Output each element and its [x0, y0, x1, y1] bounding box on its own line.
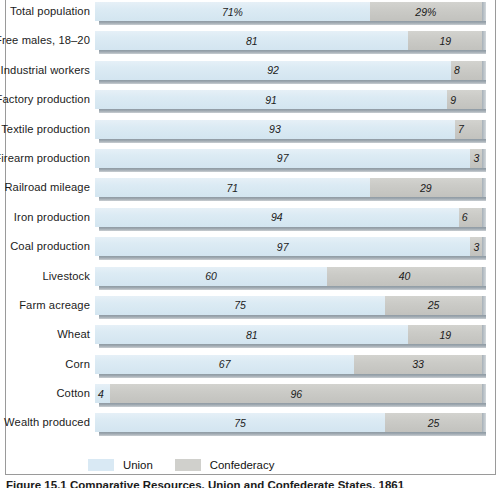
- bar-shadow: [99, 227, 486, 231]
- stacked-bar: 71%29%: [95, 2, 482, 21]
- bar-row: Textile production937: [0, 118, 497, 147]
- confederacy-swatch-icon: [175, 459, 201, 471]
- bar-segment-union: 91: [95, 90, 447, 109]
- bar-row-label: Total population: [0, 2, 90, 21]
- bar-row-label: Textile production: [0, 120, 90, 139]
- bar-row: Factory production919: [0, 88, 497, 117]
- bar-segment-confederacy: 29%: [370, 2, 482, 21]
- bar-row: Farm acreage7525: [0, 294, 497, 323]
- bar-row-label: Railroad mileage: [0, 178, 90, 197]
- legend-label-confederacy: Confederacy: [210, 459, 275, 471]
- bar-segment-union: 71%: [95, 2, 370, 21]
- stacked-bar: 946: [95, 208, 482, 227]
- stacked-bar: 7525: [95, 413, 482, 432]
- bar-row: Free males, 18–208119: [0, 29, 497, 58]
- stacked-bar: 7129: [95, 178, 482, 197]
- bar-segment-union: 75: [95, 296, 385, 315]
- bar-segment-confederacy: 25: [385, 296, 482, 315]
- bar-segment-confederacy: 8: [451, 61, 482, 80]
- bar-segment-confederacy: 7: [455, 120, 482, 139]
- bar-segment-confederacy: 25: [385, 413, 482, 432]
- bar-shadow: [99, 50, 486, 54]
- bar-shadow: [99, 403, 486, 407]
- bar-segment-confederacy: 6: [459, 208, 482, 227]
- chart-legend: Union Confederacy: [0, 455, 497, 475]
- bar-row: Railroad mileage7129: [0, 176, 497, 205]
- bar-segment-confederacy: 96: [110, 384, 482, 403]
- bar-shadow: [99, 139, 486, 143]
- stacked-bar: 8119: [95, 31, 482, 50]
- bar-row: Iron production946: [0, 206, 497, 235]
- bar-row: Cotton496: [0, 382, 497, 411]
- union-swatch-icon: [88, 459, 114, 471]
- bar-row: Firearm production973: [0, 147, 497, 176]
- bar-shadow: [99, 168, 486, 172]
- bar-segment-confederacy: 33: [354, 355, 482, 374]
- stacked-bar: 8119: [95, 325, 482, 344]
- bar-row-label: Cotton: [0, 384, 90, 403]
- bar-segment-union: 4: [95, 384, 110, 403]
- stacked-bar: 496: [95, 384, 482, 403]
- figure-caption: Figure 15.1 Comparative Resources, Union…: [6, 479, 496, 488]
- bar-row-label: Free males, 18–20: [0, 31, 90, 50]
- bar-segment-union: 94: [95, 208, 459, 227]
- bar-row: Livestock6040: [0, 265, 497, 294]
- bar-shadow: [99, 344, 486, 348]
- bar-segment-union: 93: [95, 120, 455, 139]
- bar-row-label: Livestock: [0, 267, 90, 286]
- bar-row: Wealth produced7525: [0, 411, 497, 440]
- bar-segment-union: 71: [95, 178, 370, 197]
- bar-row: Coal production973: [0, 235, 497, 264]
- stacked-bar: 6040: [95, 267, 482, 286]
- bar-segment-union: 75: [95, 413, 385, 432]
- bar-row-label: Firearm production: [0, 149, 90, 168]
- stacked-bar: 973: [95, 237, 482, 256]
- stacked-bar: 928: [95, 61, 482, 80]
- bar-row-label: Industrial workers: [0, 61, 90, 80]
- bar-row-label: Wealth produced: [0, 413, 90, 432]
- stacked-bar: 919: [95, 90, 482, 109]
- stacked-bar: 6733: [95, 355, 482, 374]
- bar-segment-union: 92: [95, 61, 451, 80]
- bar-shadow: [99, 374, 486, 378]
- bar-segment-union: 81: [95, 325, 408, 344]
- stacked-bar: 937: [95, 120, 482, 139]
- bar-segment-confederacy: 19: [408, 325, 482, 344]
- bar-segment-union: 81: [95, 31, 408, 50]
- bar-segment-confederacy: 3: [470, 149, 482, 168]
- bar-row: Total population71%29%: [0, 0, 497, 29]
- bar-row-label: Farm acreage: [0, 296, 90, 315]
- legend-item-confederacy: Confederacy: [175, 459, 275, 471]
- bar-row: Corn6733: [0, 353, 497, 382]
- stacked-bar: 7525: [95, 296, 482, 315]
- bar-shadow: [99, 21, 486, 25]
- comparative-resources-figure: Total population71%29%Free males, 18–208…: [0, 0, 497, 488]
- bar-segment-confederacy: 3: [470, 237, 482, 256]
- bar-segment-union: 67: [95, 355, 354, 374]
- bar-segment-confederacy: 19: [408, 31, 482, 50]
- bar-shadow: [99, 80, 486, 84]
- bar-shadow: [99, 109, 486, 113]
- legend-item-union: Union: [88, 459, 153, 471]
- bar-segment-confederacy: 9: [447, 90, 482, 109]
- bar-segment-confederacy: 29: [370, 178, 482, 197]
- bar-segment-union: 60: [95, 267, 327, 286]
- bar-row-label: Corn: [0, 355, 90, 374]
- bar-row: Industrial workers928: [0, 59, 497, 88]
- bar-rows-container: Total population71%29%Free males, 18–208…: [0, 0, 497, 441]
- bar-shadow: [99, 432, 486, 436]
- bar-shadow: [99, 286, 486, 290]
- bar-row-label: Factory production: [0, 90, 90, 109]
- bar-segment-union: 97: [95, 237, 470, 256]
- bar-segment-confederacy: 40: [327, 267, 482, 286]
- stacked-bar: 973: [95, 149, 482, 168]
- bar-shadow: [99, 197, 486, 201]
- bar-row-label: Coal production: [0, 237, 90, 256]
- bar-row-label: Iron production: [0, 208, 90, 227]
- legend-label-union: Union: [123, 459, 153, 471]
- bar-row: Wheat8119: [0, 323, 497, 352]
- bar-shadow: [99, 315, 486, 319]
- bar-row-label: Wheat: [0, 325, 90, 344]
- bar-segment-union: 97: [95, 149, 470, 168]
- bar-shadow: [99, 256, 486, 260]
